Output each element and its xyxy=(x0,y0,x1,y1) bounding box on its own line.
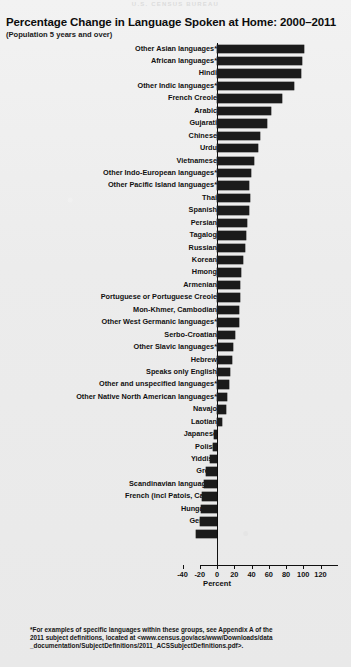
bar xyxy=(217,132,260,140)
bar-category-label: Other Indic languages* xyxy=(138,80,217,92)
bar xyxy=(217,331,235,339)
bar-row: Navajo xyxy=(6,403,345,415)
bar-row: Italian xyxy=(6,528,345,540)
bar-category-label: Korean xyxy=(192,254,217,266)
x-tick xyxy=(183,565,184,569)
bar xyxy=(204,480,217,488)
bar-row: Tagalog xyxy=(6,229,345,241)
x-tick-label: 0 xyxy=(215,570,219,579)
bar xyxy=(217,281,240,289)
bar-category-label: Vietnamese xyxy=(177,155,217,167)
x-axis-title: Percent xyxy=(203,579,231,588)
bar xyxy=(213,443,217,451)
bar-category-label: Russian xyxy=(189,242,217,254)
bar-row: Speaks only English xyxy=(6,366,345,378)
bar-row: Gujarati xyxy=(6,117,345,129)
bar-category-label: Hmong xyxy=(192,266,217,278)
bar-row: Other Indo-European languages* xyxy=(6,167,345,179)
x-tick xyxy=(234,565,235,569)
bar-category-label: Gujarati xyxy=(189,117,217,129)
bar-category-label: Other Slavic languages* xyxy=(133,341,217,353)
bar xyxy=(217,119,267,127)
bar-row: Greek xyxy=(6,465,345,477)
bar-row: Arabic xyxy=(6,105,345,117)
bar-category-label: Tagalog xyxy=(190,229,217,241)
bar-row: German xyxy=(6,515,345,527)
bar-row: Armenian xyxy=(6,279,345,291)
x-tick xyxy=(252,565,253,569)
chart-footnote: *For examples of specific languages with… xyxy=(30,626,330,649)
x-tick-label: 100 xyxy=(297,570,309,579)
bar xyxy=(217,393,227,401)
bar-row: Other West Germanic languages* xyxy=(6,316,345,328)
bar xyxy=(217,256,243,264)
bar-row: African languages* xyxy=(6,55,345,67)
bar-category-label: Serbo-Croatian xyxy=(164,329,217,341)
bar xyxy=(217,356,232,364)
x-tick xyxy=(321,565,322,569)
bar-row: Yiddish xyxy=(6,453,345,465)
bar-row: Hmong xyxy=(6,266,345,278)
x-tick xyxy=(286,565,287,569)
chart-figure: Percentage Change in Language Spoken at … xyxy=(6,16,345,616)
x-tick-label: 80 xyxy=(282,570,290,579)
bar-row: Other Indic languages* xyxy=(6,80,345,92)
footnote-line-3: _documentation/SubjectDefinitions/2011_A… xyxy=(30,642,330,650)
bar xyxy=(217,94,282,102)
bar-row: Other Slavic languages* xyxy=(6,341,345,353)
page-header-faint: U.S. CENSUS BUREAU xyxy=(0,1,351,7)
bar-row: Chinese xyxy=(6,130,345,142)
bar xyxy=(217,268,241,276)
bar-row: Russian xyxy=(6,242,345,254)
chart-subtitle: (Population 5 years and over) xyxy=(6,30,345,39)
bar-category-label: French Creole xyxy=(168,92,217,104)
bar-category-label: Other West Germanic languages* xyxy=(102,316,217,328)
bar-category-label: Mon-Khmer, Cambodian xyxy=(133,304,217,316)
bar-row: Hungarian xyxy=(6,503,345,515)
bar xyxy=(217,45,304,53)
bar xyxy=(217,107,271,115)
bar xyxy=(217,343,233,351)
bar-rows: Other Asian languages*African languages*… xyxy=(6,43,345,541)
bar-row: Vietnamese xyxy=(6,155,345,167)
bar-row: Korean xyxy=(6,254,345,266)
x-axis: -40-20020406080100120 Percent xyxy=(6,565,345,595)
bar-category-label: Armenian xyxy=(183,279,217,291)
bar xyxy=(217,244,245,252)
plot-area: Other Asian languages*African languages*… xyxy=(6,43,345,571)
bar xyxy=(217,194,250,202)
bar-category-label: African languages* xyxy=(151,55,217,67)
bar-category-label: Speaks only English xyxy=(146,366,217,378)
footnote-line-2: 2011 subject definitions, located at <ww… xyxy=(30,634,330,642)
bar-row: Laotian xyxy=(6,416,345,428)
bar xyxy=(217,380,229,388)
bar-category-label: Other Indo-European languages* xyxy=(103,167,217,179)
bar xyxy=(217,418,222,426)
bar xyxy=(217,82,294,90)
x-tick-label: 60 xyxy=(265,570,273,579)
x-tick-label: 120 xyxy=(314,570,326,579)
chart-title: Percentage Change in Language Spoken at … xyxy=(6,16,345,29)
bar-category-label: Laotian xyxy=(191,416,217,428)
bar-category-label: Hebrew xyxy=(191,354,217,366)
bar-category-label: Other and unspecified languages* xyxy=(99,378,217,390)
bar-row: Polish xyxy=(6,441,345,453)
x-tick-label: 20 xyxy=(230,570,238,579)
bar xyxy=(217,144,258,152)
bar-row: Hebrew xyxy=(6,354,345,366)
bar xyxy=(196,530,217,538)
bar xyxy=(217,169,251,177)
bar-category-label: Spanish xyxy=(189,204,217,216)
bar xyxy=(217,293,240,301)
bar-row: Scandinavian languages* xyxy=(6,478,345,490)
bar-category-label: Japanese xyxy=(184,428,217,440)
bar xyxy=(210,455,217,463)
bar xyxy=(217,368,230,376)
bar-category-label: Urdu xyxy=(200,142,217,154)
bar-row: Other and unspecified languages* xyxy=(6,378,345,390)
bar-row: French (incl Patois, Cajun) xyxy=(6,490,345,502)
bar xyxy=(217,231,246,239)
bar-row: Japanese xyxy=(6,428,345,440)
x-tick-label: -40 xyxy=(177,570,188,579)
bar-row: Other Asian languages* xyxy=(6,43,345,55)
